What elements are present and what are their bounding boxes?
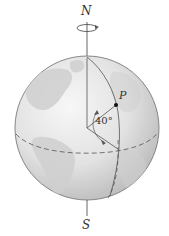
south-label: S: [82, 219, 90, 231]
rotation-arrow-icon: [77, 25, 99, 32]
latitude-angle-label: 40°: [95, 116, 113, 126]
earth-diagram: N S P 40°: [0, 0, 169, 236]
point-p-dot: [114, 103, 118, 107]
globe-figure: [0, 0, 169, 236]
north-label: N: [81, 5, 92, 17]
point-p-label: P: [119, 90, 126, 101]
